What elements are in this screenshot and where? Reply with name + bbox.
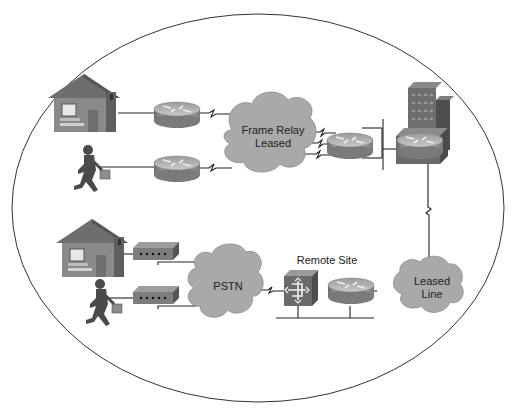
access-server-icon [284, 270, 318, 306]
leased-line-label-line1: Leased [404, 275, 460, 288]
frame-relay-cloud-label: Frame Relay Leased [238, 124, 308, 150]
router-icon-headquarters [397, 133, 443, 159]
mobile-user-icon [74, 145, 110, 192]
remote-site-label: Remote Site [292, 254, 362, 267]
router-icon-remote-site [328, 278, 374, 304]
modem-icon-house [133, 242, 179, 260]
modem-icon-mobile [133, 286, 179, 304]
pstn-cloud-label: PSTN [200, 280, 256, 293]
router-icon-hub [327, 133, 373, 159]
home-office-house-icon-dialup [56, 219, 128, 277]
frame-relay-label-line1: Frame Relay [238, 124, 308, 137]
home-office-house-icon [48, 74, 120, 132]
pstn-label: PSTN [200, 280, 256, 293]
router-icon-mobile [154, 156, 200, 182]
leased-line-cloud-label: Leased Line [404, 275, 460, 301]
leased-line-label-line2: Line [404, 288, 460, 301]
frame-relay-label-line2: Leased [238, 137, 308, 150]
mobile-user-icon-dialup [86, 279, 122, 326]
router-icon-home [154, 102, 200, 128]
network-diagram [0, 0, 516, 409]
